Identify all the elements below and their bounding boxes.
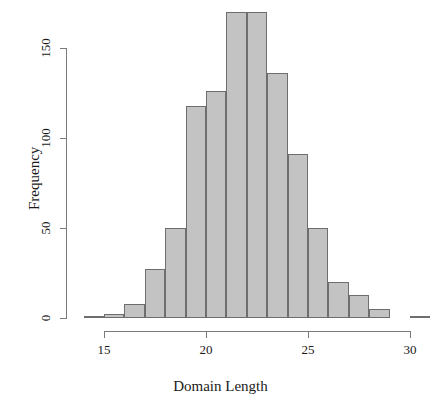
histogram-bar (328, 282, 348, 318)
histogram-bar (410, 316, 430, 318)
histogram-bar (267, 73, 287, 318)
y-axis-tick (60, 228, 67, 229)
histogram-figure: 050100150 15202530 Domain Length Frequen… (0, 0, 441, 408)
x-axis-tick-label: 30 (390, 343, 430, 356)
x-axis-tick (206, 331, 207, 338)
plot-area: 050100150 15202530 Domain Length Frequen… (0, 0, 441, 408)
x-axis-title: Domain Length (0, 378, 441, 395)
x-axis-tick (104, 331, 105, 338)
histogram-bar (104, 314, 124, 318)
histogram-bar (349, 295, 369, 318)
y-axis-tick (60, 318, 67, 319)
x-axis-line (104, 331, 410, 332)
y-axis-tick (60, 138, 67, 139)
y-axis-tick-label: 0 (39, 315, 52, 322)
y-axis-tick (60, 48, 67, 49)
histogram-bar (124, 304, 144, 318)
histogram-bar (288, 154, 308, 318)
histogram-bar (84, 316, 104, 318)
histogram-bar (186, 106, 206, 318)
histogram-bar (247, 12, 267, 318)
y-axis-line (66, 48, 67, 318)
x-axis-tick-label: 15 (84, 343, 124, 356)
histogram-bar (206, 91, 226, 318)
histogram-bar (165, 228, 185, 318)
x-axis-tick (308, 331, 309, 338)
y-axis-title: Frequency (26, 147, 43, 210)
x-axis-tick (410, 331, 411, 338)
histogram-bar (145, 269, 165, 318)
histogram-bar (369, 309, 389, 318)
histogram-bar (308, 228, 328, 318)
x-axis-tick-label: 25 (288, 343, 328, 356)
y-axis-tick-label: 50 (39, 222, 52, 235)
histogram-bar (226, 12, 246, 318)
y-axis-tick-label: 100 (39, 128, 52, 148)
x-axis-tick-label: 20 (186, 343, 226, 356)
y-axis-tick-label: 150 (39, 38, 52, 58)
